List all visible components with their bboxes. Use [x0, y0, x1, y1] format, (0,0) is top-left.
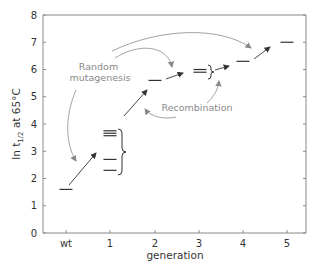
y-tick-label: 6: [31, 64, 37, 75]
x-tick-label: 4: [240, 238, 246, 249]
x-tick-label: 1: [107, 238, 113, 249]
y-tick-label: 3: [31, 146, 37, 157]
y-tick-label: 1: [31, 200, 37, 211]
brace-gen3: [208, 65, 214, 79]
y-tick-label: 0: [31, 228, 37, 239]
chart: 012345678 wt12345 generation ln t1/2 at …: [0, 0, 322, 275]
y-axis: 012345678: [31, 10, 306, 239]
y-axis-title: ln t1/2 at 65°C: [10, 88, 25, 159]
x-tick-label: 2: [152, 238, 158, 249]
brace-gen1: [118, 129, 126, 175]
annotation-random-mutagenesis: Random mutagenesis: [69, 61, 130, 83]
plot-frame: [43, 15, 306, 233]
y-tick-label: 8: [31, 10, 37, 21]
x-tick-label: 5: [284, 238, 290, 249]
annotation-recombination: Recombination: [161, 102, 232, 113]
y-tick-label: 4: [31, 119, 37, 130]
x-axis-title: generation: [146, 249, 203, 261]
y-tick-label: 2: [31, 173, 37, 184]
y-tick-label: 5: [31, 91, 37, 102]
annotation-arcs: [68, 33, 251, 161]
x-tick-label: wt: [60, 238, 72, 249]
y-tick-label: 7: [31, 37, 37, 48]
x-tick-label: 3: [196, 238, 202, 249]
